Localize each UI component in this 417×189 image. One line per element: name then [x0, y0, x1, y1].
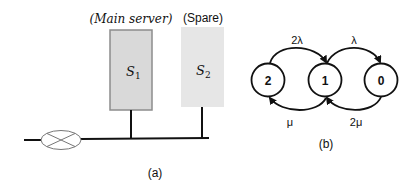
rate-2-to-1: 2λ: [291, 34, 303, 46]
svg-text:0: 0: [378, 74, 385, 88]
state-2: 2: [252, 64, 285, 97]
figure-b: 2 1 0 2λ λ μ 2μ (b): [252, 34, 398, 151]
figure-a: (Main server) (Spare) S1 S2 (a): [24, 11, 224, 180]
transition-0-to-1-arrow: [327, 97, 381, 110]
svg-text:2: 2: [265, 74, 272, 88]
switch-icon: [41, 131, 81, 150]
caption-b: (b): [319, 137, 334, 151]
bus-line: [81, 138, 209, 139]
main-server-heading: (Main server): [90, 12, 173, 26]
svg-text:1: 1: [322, 74, 329, 88]
figure-canvas: (Main server) (Spare) S1 S2 (a) 2 1: [0, 0, 417, 189]
rate-1-to-0: λ: [351, 34, 357, 46]
state-1: 1: [309, 64, 342, 97]
transition-2-to-1-arrow: [270, 48, 326, 63]
state-0: 0: [365, 64, 398, 97]
transition-1-to-0-arrow: [327, 48, 380, 63]
transition-1-to-2-arrow: [270, 98, 326, 110]
rate-1-to-2: μ: [287, 116, 293, 128]
rate-0-to-1: 2μ: [350, 116, 362, 128]
spare-server-heading: (Spare): [183, 11, 223, 25]
caption-a: (a): [148, 166, 163, 180]
